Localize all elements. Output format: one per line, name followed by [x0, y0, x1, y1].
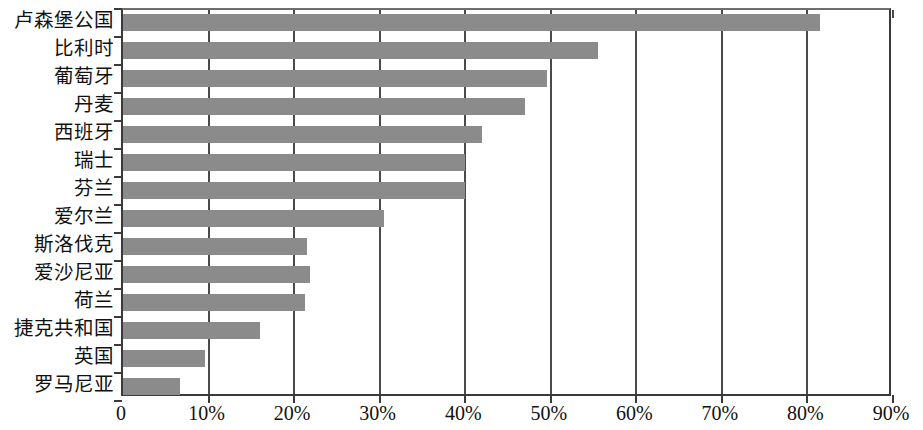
y-tick: [114, 232, 122, 234]
gridline-80: [806, 10, 808, 394]
x-tick-top-90: [892, 10, 894, 18]
x-tick-label: 50%: [530, 400, 567, 426]
bar: [123, 154, 465, 171]
gridline-30: [379, 10, 381, 394]
bar: [123, 350, 205, 367]
x-tick-label: 40%: [445, 400, 482, 426]
gridline-50: [550, 10, 552, 394]
category-label: 比利时: [0, 38, 114, 59]
category-label: 爱尔兰: [0, 206, 114, 227]
gridline-40: [464, 10, 466, 394]
bar: [123, 70, 547, 87]
category-label: 爱沙尼亚: [0, 262, 114, 283]
bar: [123, 238, 307, 255]
category-label: 瑞士: [0, 150, 114, 171]
bar: [123, 42, 598, 59]
y-tick: [114, 148, 122, 150]
y-tick: [114, 64, 122, 66]
x-tick-label: 10%: [188, 400, 225, 426]
category-label: 荷兰: [0, 290, 114, 311]
bar: [123, 210, 384, 227]
category-label: 葡萄牙: [0, 66, 114, 87]
category-label: 西班牙: [0, 122, 114, 143]
x-tick-label: 0: [116, 400, 126, 426]
x-tick-label: 90%: [873, 400, 910, 426]
y-tick: [114, 120, 122, 122]
y-tick: [114, 260, 122, 262]
gridline-20: [293, 10, 295, 394]
y-tick: [114, 372, 122, 374]
x-tick-label: 80%: [787, 400, 824, 426]
bar: [123, 98, 525, 115]
bar: [123, 322, 260, 339]
bar-chart: 卢森堡公国比利时葡萄牙丹麦西班牙瑞士芬兰爱尔兰斯洛伐克爱沙尼亚荷兰捷克共和国英国…: [0, 0, 923, 430]
y-tick: [114, 288, 122, 290]
y-tick: [114, 204, 122, 206]
category-label: 斯洛伐克: [0, 234, 114, 255]
bar: [123, 266, 310, 283]
x-tick-label: 30%: [359, 400, 396, 426]
category-label: 卢森堡公国: [0, 10, 114, 31]
category-axis: 卢森堡公国比利时葡萄牙丹麦西班牙瑞士芬兰爱尔兰斯洛伐克爱沙尼亚荷兰捷克共和国英国…: [0, 0, 117, 396]
bar: [123, 378, 180, 395]
x-tick-label: 60%: [616, 400, 653, 426]
plot-area: [121, 8, 891, 396]
bar: [123, 126, 482, 143]
category-label: 英国: [0, 346, 114, 367]
gridline-60: [635, 10, 637, 394]
y-tick: [114, 344, 122, 346]
y-tick: [114, 92, 122, 94]
bar: [123, 294, 305, 311]
x-tick-label: 70%: [702, 400, 739, 426]
bar: [123, 14, 820, 31]
bar: [123, 182, 465, 199]
x-tick-label: 20%: [274, 400, 311, 426]
x-axis-tick-labels: 010%20%30%40%50%60%70%80%90%: [0, 400, 923, 430]
category-label: 罗马尼亚: [0, 374, 114, 395]
category-label: 芬兰: [0, 178, 114, 199]
y-tick: [114, 176, 122, 178]
category-label: 丹麦: [0, 94, 114, 115]
category-label: 捷克共和国: [0, 318, 114, 339]
y-tick: [114, 36, 122, 38]
gridline-70: [721, 10, 723, 394]
y-tick: [114, 8, 122, 10]
y-tick: [114, 316, 122, 318]
